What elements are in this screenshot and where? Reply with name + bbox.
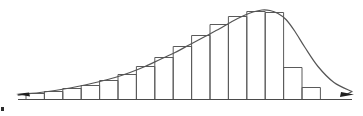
histogram-bar <box>210 25 228 100</box>
histogram-bar <box>100 81 118 100</box>
histogram-bar <box>302 88 320 100</box>
histogram-bar <box>136 67 154 100</box>
histogram-bar <box>44 92 62 100</box>
corner-speck <box>1 107 4 111</box>
histogram-bar <box>265 13 283 100</box>
histogram-with-curve-figure <box>0 0 363 116</box>
right-arrow-head <box>340 92 354 97</box>
horizontal-axis-group <box>16 92 354 100</box>
histogram-bar <box>284 68 302 100</box>
histogram-bar <box>228 17 246 100</box>
histogram-bar <box>173 47 191 100</box>
histogram-bar <box>63 89 81 100</box>
histogram-bar <box>247 12 265 100</box>
histogram-bars-group <box>26 12 320 100</box>
histogram-bar <box>192 36 210 100</box>
histogram-bar <box>81 86 99 100</box>
figure-canvas <box>0 0 363 116</box>
histogram-bar <box>155 58 173 100</box>
histogram-bar <box>118 75 136 100</box>
